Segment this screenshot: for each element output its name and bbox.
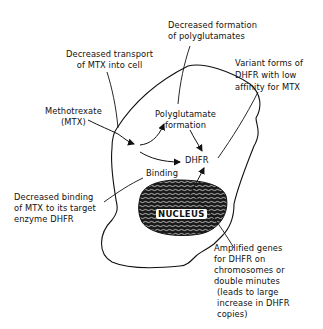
polyglutamate-to-dhfr-arrow [190, 130, 202, 151]
label-polyglutamate: Polyglutamate formation [155, 109, 216, 131]
label-methotrexate: Methotrexate (MTX) [45, 106, 102, 128]
leader-decreased-polyglutamates [178, 46, 190, 104]
label-binding: Binding [146, 168, 178, 179]
leader-decreased-binding [104, 178, 143, 202]
mtx-to-dhfr-arrow [140, 152, 180, 162]
label-nucleus: NUCLEUS [156, 209, 207, 219]
leader-decreased-transport [107, 72, 118, 128]
label-decreased-polyglutamates: Decreased formation of polyglutamates [168, 20, 257, 42]
leader-variant-dhfr [218, 92, 258, 158]
label-amplified-genes: Amplified genes for DHFR on chromosomes … [214, 243, 290, 320]
nucleus [139, 180, 227, 236]
label-decreased-binding: Decreased binding of MTX to its target e… [14, 192, 96, 225]
label-dhfr: DHFR [185, 155, 209, 166]
label-variant-dhfr: Variant forms of DHFR with low affinity … [235, 57, 303, 93]
label-decreased-transport: Decreased transport of MTX into cell [66, 49, 153, 71]
cell-membrane [102, 65, 260, 268]
